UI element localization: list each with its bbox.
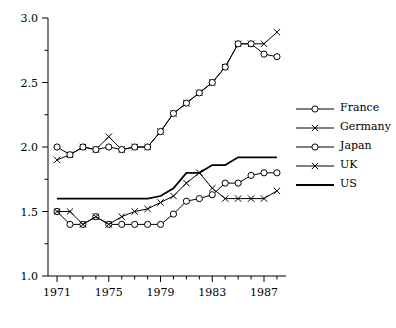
svg-text:3.0: 3.0 <box>21 12 39 25</box>
svg-text:2.5: 2.5 <box>21 77 39 90</box>
legend-label-france: France <box>334 101 379 115</box>
svg-text:1.0: 1.0 <box>21 270 39 283</box>
legend-symbol-circle-icon <box>296 101 334 115</box>
legend-label-uk: UK <box>334 158 358 172</box>
legend-symbol-line-icon <box>296 177 334 191</box>
legend-item-us: US <box>296 174 392 193</box>
svg-text:1.5: 1.5 <box>21 206 39 219</box>
chart-legend: France Germany Japan <box>296 98 392 193</box>
svg-text:1975: 1975 <box>95 286 123 299</box>
legend-item-france: France <box>296 98 392 117</box>
legend-symbol-cross-icon <box>296 120 334 134</box>
chart-container: 1.01.52.02.53.019711975197919831987 Fran… <box>0 0 396 328</box>
legend-symbol-circle-icon <box>296 139 334 153</box>
svg-text:1987: 1987 <box>250 286 278 299</box>
legend-label-us: US <box>334 177 357 191</box>
legend-label-germany: Germany <box>334 120 391 134</box>
svg-text:1971: 1971 <box>43 286 71 299</box>
legend-item-uk: UK <box>296 155 392 174</box>
legend-symbol-cross-icon <box>296 158 334 172</box>
svg-text:1979: 1979 <box>147 286 175 299</box>
svg-text:1983: 1983 <box>198 286 226 299</box>
legend-item-japan: Japan <box>296 136 392 155</box>
legend-item-germany: Germany <box>296 117 392 136</box>
svg-text:2.0: 2.0 <box>21 141 39 154</box>
legend-label-japan: Japan <box>334 139 372 153</box>
